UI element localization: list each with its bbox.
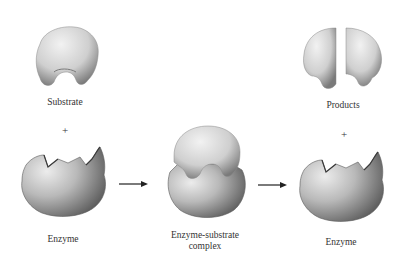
- substrate-shape: [30, 22, 102, 92]
- complex-label: Enzyme-substrate complex: [150, 230, 260, 252]
- products-shape: [302, 26, 384, 92]
- enzyme-shape-left: [18, 145, 108, 220]
- substrate-label: Substrate: [30, 97, 100, 108]
- plus-sign-right: +: [341, 128, 347, 140]
- arrow-right-1: [119, 180, 149, 188]
- complex-label-line1: Enzyme-substrate: [150, 230, 260, 241]
- plus-sign-left: +: [62, 124, 68, 136]
- enzyme-shape-right: [296, 150, 386, 225]
- enzyme-label-right: Enzyme: [306, 237, 376, 248]
- arrow-right-2: [258, 181, 288, 189]
- complex-label-line2: complex: [150, 241, 260, 252]
- enzyme-substrate-complex-shape: [160, 122, 250, 220]
- enzyme-label-left: Enzyme: [28, 234, 98, 245]
- products-label: Products: [308, 100, 378, 111]
